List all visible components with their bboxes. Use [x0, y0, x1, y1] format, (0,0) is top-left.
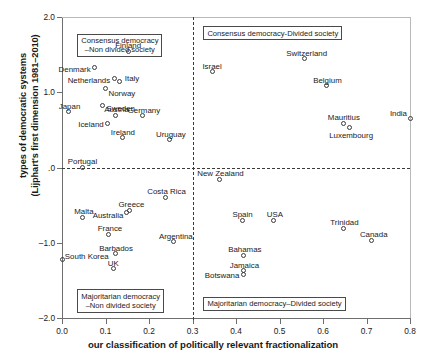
quadrant-label-line1: Consensus democracy-Divided society [207, 29, 338, 38]
quadrant-label-majoritarian-non-divided: Majoritarian democracy–Non divided socie… [77, 289, 164, 313]
data-point[interactable] [105, 121, 110, 126]
data-point-label: Iceland [78, 121, 103, 129]
data-point-label: Japan [59, 103, 81, 111]
y-tick-label: .0 [22, 163, 55, 173]
plot-frame-top [62, 17, 410, 18]
data-point-label: Mauritius [328, 114, 360, 122]
data-point-label: India [390, 110, 407, 118]
data-point-label: Finland [115, 42, 141, 50]
vertical-reference-line [193, 17, 194, 320]
data-point-label: France [98, 225, 123, 233]
quadrant-label-majoritarian-divided: Majoritarian democracy–Divided society [203, 297, 345, 311]
scatter-chart: types of democratic systems (Lijphart's … [0, 0, 426, 361]
data-point-label: Trinidad [330, 219, 358, 227]
x-tick-label: 0.4 [218, 326, 254, 336]
data-point-label: Portugal [68, 158, 97, 166]
data-point-label: Germany [128, 107, 160, 115]
data-point-label: Luxembourg [329, 132, 373, 140]
x-tick [62, 319, 63, 324]
data-point[interactable] [112, 76, 117, 81]
data-point-label: Costa Rica [147, 188, 186, 196]
data-point-label: Ireland [111, 129, 135, 137]
quadrant-label-consensus-divided: Consensus democracy-Divided society [203, 26, 342, 40]
data-point-label: Switzerland [286, 50, 327, 58]
quadrant-label-line1: Majoritarian democracy–Divided society [207, 299, 341, 308]
x-tick [236, 319, 237, 324]
data-point-label: Italy [125, 75, 139, 83]
data-point-label: Greece [118, 201, 144, 209]
data-point-label: Norway [109, 90, 136, 98]
data-point-label: Botswana [205, 272, 240, 280]
data-point-label: New Zealand [197, 170, 244, 178]
data-point-label: Israel [202, 63, 221, 71]
data-point-label: Netherlands [68, 77, 111, 85]
x-tick-label: 0.3 [175, 326, 211, 336]
x-tick [149, 319, 150, 324]
x-tick [280, 319, 281, 324]
x-tick-label: 0.2 [131, 326, 167, 336]
data-point-label: UK [108, 260, 119, 268]
data-point-label: Spain [232, 211, 252, 219]
x-axis-title: our classification of politically releva… [0, 339, 426, 350]
y-tick-label: –2.0 [22, 313, 55, 323]
data-point[interactable] [347, 125, 352, 130]
x-tick-label: 0.6 [305, 326, 341, 336]
data-point-label: South Korea [65, 253, 109, 261]
y-tick [57, 243, 62, 244]
x-tick-label: 0.8 [392, 326, 426, 336]
data-point[interactable] [92, 65, 97, 70]
y-tick-label: –1.0 [22, 238, 55, 248]
data-point[interactable] [124, 210, 129, 215]
x-tick-label: 0.1 [88, 326, 124, 336]
x-tick [410, 319, 411, 324]
y-tick [57, 17, 62, 18]
data-point-label: Canada [360, 231, 388, 239]
data-point-label: USA [267, 211, 283, 219]
data-point-label: Argentina [159, 233, 193, 241]
plot-frame-right [410, 17, 411, 318]
y-tick-label: 1.0 [22, 87, 55, 97]
y-axis-title-line1: types of democratic systems [18, 0, 30, 241]
quadrant-label-line2: –Non divided society [81, 301, 160, 310]
data-point-label: Jamaica [230, 262, 259, 270]
y-axis-title-line2: (Lijphart's first dimension 1981–2010) [29, 0, 41, 241]
x-tick [106, 319, 107, 324]
data-point-label: Malta [74, 208, 93, 216]
data-point[interactable] [117, 79, 122, 84]
y-tick [57, 92, 62, 93]
data-point[interactable] [103, 86, 108, 91]
x-tick [323, 319, 324, 324]
x-tick-label: 0.0 [44, 326, 80, 336]
data-point-label: Denmark [59, 66, 91, 74]
data-point[interactable] [408, 116, 413, 121]
data-point-label: Australia [93, 212, 124, 220]
y-tick-label: 2.0 [22, 12, 55, 22]
x-tick [367, 319, 368, 324]
data-point[interactable] [241, 272, 246, 277]
data-point-label: Uruguay [156, 131, 186, 139]
quadrant-label-line1: Majoritarian democracy [81, 292, 160, 301]
x-tick-label: 0.5 [262, 326, 298, 336]
y-axis-title: types of democratic systems (Lijphart's … [18, 0, 41, 241]
data-point-label: Belgium [313, 77, 342, 85]
data-point-label: Austria [104, 106, 129, 114]
x-tick-label: 0.7 [349, 326, 385, 336]
data-point-label: Bahamas [228, 246, 261, 254]
